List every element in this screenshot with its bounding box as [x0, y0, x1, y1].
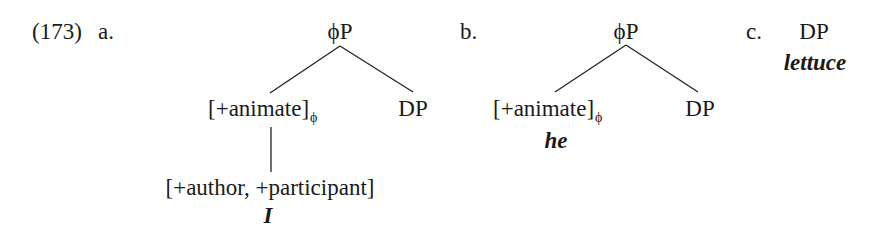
- tree-a-right-child: DP: [398, 97, 427, 120]
- branch-a-right: [340, 46, 413, 92]
- tree-b-right-child: DP: [685, 97, 714, 120]
- tree-b-exponent: he: [545, 129, 568, 152]
- feature-label: [+animate]: [493, 96, 594, 121]
- branch-a-left: [270, 46, 340, 93]
- tree-a-left-child: [+animate]ϕ: [208, 97, 317, 120]
- feature-label: [+animate]: [208, 96, 309, 121]
- tree-a-grandchild: [+author, +participant]: [166, 176, 375, 199]
- tree-c-root: DP: [799, 20, 828, 43]
- tree-c-exponent: lettuce: [784, 51, 847, 74]
- tree-a-label: a.: [98, 20, 114, 43]
- tree-c-label: c.: [746, 20, 762, 43]
- phi-subscript: ϕ: [310, 110, 317, 125]
- tree-a-exponent: I: [264, 204, 273, 227]
- tree-b-left-child: [+animate]ϕ: [493, 97, 602, 120]
- tree-a-root: ϕP: [328, 20, 353, 43]
- branch-b-right: [626, 45, 698, 92]
- branch-b-left: [555, 45, 626, 92]
- tree-b-label: b.: [460, 20, 477, 43]
- phi-subscript: ϕ: [595, 110, 602, 125]
- example-number: (173): [32, 20, 82, 43]
- tree-branches: [0, 0, 875, 238]
- tree-b-root: ϕP: [614, 20, 639, 43]
